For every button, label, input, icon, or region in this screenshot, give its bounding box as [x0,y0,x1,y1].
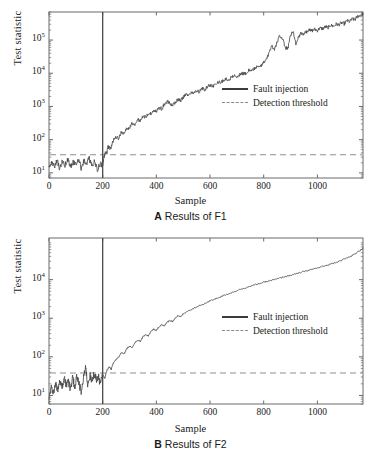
y-tick-mantissa: 10 [32,388,42,398]
legend-dashed-line-icon [222,326,248,336]
x-tick-label: 0 [29,407,69,417]
y-tick-mantissa: 10 [32,99,42,109]
y-tick-exponent: 3 [42,309,45,316]
x-tick-label: 400 [136,407,176,417]
x-tick-label: 800 [244,407,284,417]
legend-a: Fault injection Detection threshold [222,82,328,110]
y-tick-mantissa: 10 [32,33,42,43]
legend-item-detection-threshold-a: Detection threshold [222,96,328,110]
y-tick-label: 103 [17,99,45,109]
legend-dashed-line-icon [222,98,248,108]
chart-panel-b: Test statistic Sample B Results of F2 Fa… [0,228,381,457]
y-tick-exponent: 4 [42,270,45,277]
legend-item-detection-threshold-b: Detection threshold [222,324,328,338]
y-tick-mantissa: 10 [32,311,42,321]
legend-label-detection-threshold: Detection threshold [253,326,328,336]
x-tick-label: 200 [83,181,123,191]
x-tick-label: 1000 [297,181,337,191]
panel-caption-b: B Results of F2 [0,438,381,450]
y-tick-exponent: 2 [42,131,45,138]
y-tick-mantissa: 10 [32,66,42,76]
y-tick-label: 102 [17,350,45,360]
y-tick-label: 104 [17,273,45,283]
y-tick-label: 102 [17,133,45,143]
y-tick-label: 101 [17,388,45,398]
y-tick-exponent: 2 [42,348,45,355]
y-tick-mantissa: 10 [32,350,42,360]
legend-label-detection-threshold: Detection threshold [253,98,328,108]
y-tick-exponent: 5 [42,31,45,38]
x-axis-label-a: Sample [0,195,381,206]
legend-label-fault-injection: Fault injection [253,84,308,94]
y-tick-label: 103 [17,311,45,321]
y-tick-exponent: 1 [42,386,45,393]
x-tick-label: 800 [244,181,284,191]
caption-text-a: Results of F1 [165,210,227,222]
chart-panel-a: Test statistic Sample A Results of F1 Fa… [0,0,381,228]
legend-item-fault-injection-b: Fault injection [222,310,328,324]
x-tick-label: 0 [29,181,69,191]
y-tick-label: 101 [17,166,45,176]
caption-letter-b: B [154,438,162,450]
y-tick-label: 105 [17,33,45,43]
x-axis-label-b: Sample [0,423,381,434]
x-tick-label: 1000 [297,407,337,417]
legend-label-fault-injection: Fault injection [253,312,308,322]
figure-root: Test statistic Sample A Results of F1 Fa… [0,0,381,457]
y-tick-exponent: 4 [42,64,45,71]
x-tick-label: 400 [136,181,176,191]
legend-solid-line-icon [222,312,248,322]
y-tick-mantissa: 10 [32,273,42,283]
y-tick-exponent: 1 [42,164,45,171]
caption-text-b: Results of F2 [165,438,227,450]
x-tick-label: 600 [190,181,230,191]
y-tick-label: 104 [17,66,45,76]
x-tick-label: 600 [190,407,230,417]
y-axis-label-a: Test statistic [12,50,23,66]
panel-caption-a: A Results of F1 [0,210,381,222]
x-tick-label: 200 [83,407,123,417]
legend-b: Fault injection Detection threshold [222,310,328,338]
legend-item-fault-injection-a: Fault injection [222,82,328,96]
legend-solid-line-icon [222,84,248,94]
y-tick-mantissa: 10 [32,133,42,143]
y-tick-mantissa: 10 [32,166,42,176]
y-tick-exponent: 3 [42,97,45,104]
caption-letter-a: A [154,210,162,222]
